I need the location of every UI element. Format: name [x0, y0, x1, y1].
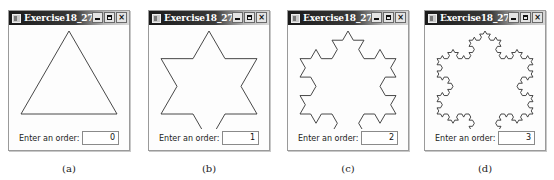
title-bar[interactable]: Exercise18_27 ×	[425, 11, 545, 25]
koch-snowflake-canvas	[149, 25, 269, 129]
order-input[interactable]: 3	[498, 131, 535, 145]
app-window: Exercise18_27 × Enter an order: 1	[148, 10, 270, 151]
maximize-button[interactable]	[104, 12, 115, 23]
title-bar[interactable]: Exercise18_27 ×	[9, 11, 129, 25]
maximize-button[interactable]	[383, 12, 394, 23]
app-window: Exercise18_27 × Enter an order: 2	[287, 10, 409, 151]
figure-caption: (c)	[287, 163, 409, 174]
app-window: Exercise18_27 × Enter an order: 0	[8, 10, 130, 151]
order-label: Enter an order:	[19, 134, 79, 143]
close-button[interactable]: ×	[532, 12, 543, 23]
minimize-button[interactable]	[371, 12, 382, 23]
order-input[interactable]: 2	[361, 131, 398, 145]
minimize-button[interactable]	[232, 12, 243, 23]
order-input-row: Enter an order: 0	[9, 131, 129, 146]
close-button[interactable]: ×	[395, 12, 406, 23]
maximize-button[interactable]	[244, 12, 255, 23]
order-input-row: Enter an order: 1	[149, 131, 269, 146]
minimize-button[interactable]	[508, 12, 519, 23]
window-title: Exercise18_27	[164, 13, 233, 23]
minimize-button[interactable]	[92, 12, 103, 23]
java-app-icon	[291, 14, 300, 23]
order-input[interactable]: 0	[82, 131, 119, 145]
order-label: Enter an order:	[435, 134, 495, 143]
app-window: Exercise18_27 × Enter an order: 3	[424, 10, 546, 151]
koch-window-panel: Exercise18_27 × Enter an order: 3 (d)	[424, 10, 546, 151]
window-title: Exercise18_27	[303, 13, 372, 23]
window-title: Exercise18_27	[24, 13, 93, 23]
order-input[interactable]: 1	[222, 131, 259, 145]
koch-snowflake	[21, 31, 117, 114]
title-bar[interactable]: Exercise18_27 ×	[288, 11, 408, 25]
koch-snowflake	[300, 31, 396, 129]
figure-caption: (d)	[424, 163, 546, 174]
koch-snowflake-canvas	[288, 25, 408, 129]
title-bar[interactable]: Exercise18_27 ×	[149, 11, 269, 25]
java-app-icon	[12, 14, 21, 23]
order-label: Enter an order:	[298, 134, 358, 143]
close-button[interactable]: ×	[256, 12, 267, 23]
koch-snowflake	[161, 31, 257, 129]
close-button[interactable]: ×	[116, 12, 127, 23]
order-input-row: Enter an order: 2	[288, 131, 408, 146]
order-label: Enter an order:	[159, 134, 219, 143]
figure-caption: (a)	[8, 163, 130, 174]
figure-caption: (b)	[148, 163, 270, 174]
java-app-icon	[152, 14, 161, 23]
koch-window-panel: Exercise18_27 × Enter an order: 0 (a)	[8, 10, 130, 151]
koch-snowflake	[437, 31, 533, 129]
koch-snowflake-canvas	[425, 25, 545, 129]
koch-window-panel: Exercise18_27 × Enter an order: 1 (b)	[148, 10, 270, 151]
java-app-icon	[428, 14, 437, 23]
koch-snowflake-canvas	[9, 25, 129, 129]
window-title: Exercise18_27	[440, 13, 509, 23]
order-input-row: Enter an order: 3	[425, 131, 545, 146]
maximize-button[interactable]	[520, 12, 531, 23]
koch-window-panel: Exercise18_27 × Enter an order: 2 (c)	[287, 10, 409, 151]
